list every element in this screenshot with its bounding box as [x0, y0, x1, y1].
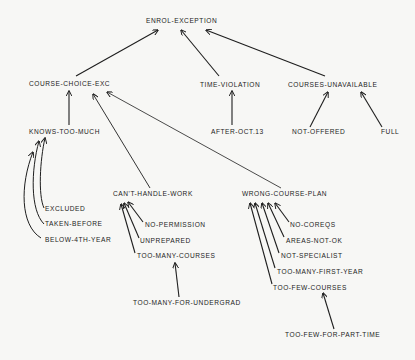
node-courses-unavailable: COURSES-UNAVAILABLE — [288, 81, 377, 89]
node-excluded: EXCLUDED — [45, 205, 85, 213]
edge-full-to-courses-unavailable — [361, 92, 382, 127]
node-taken-before: TAKEN-BEFORE — [45, 220, 102, 228]
node-enrol-exception: ENROL-EXCEPTION — [146, 17, 217, 25]
node-too-few-courses: TOO-FEW-COURSES — [273, 284, 347, 292]
node-no-permission: NO-PERMISSION — [145, 221, 206, 229]
node-time-violation: TIME-VIOLATION — [200, 81, 260, 89]
edge-course-choice-exc-to-enrol-exception — [76, 30, 158, 76]
edge-courses-unavailable-to-enrol-exception — [206, 30, 325, 76]
node-full: FULL — [381, 128, 399, 136]
edge-excluded-to-knows-too-much — [40, 138, 45, 208]
edge-no-coreqs-to-wrong-course-plan — [275, 203, 289, 222]
node-too-many-courses: TOO-MANY-COURSES — [137, 252, 215, 260]
edge-too-many-for-undergrad-to-too-many-courses — [175, 263, 179, 297]
node-course-choice-exc: COURSE-CHOICE-EXC — [29, 80, 110, 88]
edge-cant-handle-work-to-course-choice-exc — [93, 94, 150, 188]
node-areas-not-ok: AREAS-NOT-OK — [286, 237, 342, 245]
edge-below-4th-year-to-knows-too-much — [24, 152, 41, 238]
node-after-oct-13: AFTER-OCT.13 — [211, 128, 264, 136]
node-cant-handle-work: CAN'T-HANDLE-WORK — [113, 190, 193, 198]
node-not-offered: NOT-OFFERED — [292, 128, 345, 136]
exception-hierarchy-diagram: ENROL-EXCEPTION COURSE-CHOICE-EXC TIME-V… — [0, 0, 415, 360]
node-too-many-first-year: TOO-MANY-FIRST-YEAR — [277, 268, 363, 276]
node-too-few-for-part-time: TOO-FEW-FOR-PART-TIME — [285, 331, 380, 339]
node-not-specialist: NOT-SPECIALIST — [281, 252, 343, 260]
edge-not-offered-to-courses-unavailable — [310, 92, 328, 127]
node-wrong-course-plan: WRONG-COURSE-PLAN — [242, 190, 327, 198]
node-no-coreqs: NO-COREQS — [290, 221, 336, 229]
edge-too-few-for-part-time-to-too-few-courses — [323, 293, 334, 329]
edge-not-specialist-to-wrong-course-plan — [262, 203, 279, 253]
edge-no-permission-to-cant-handle-work — [128, 202, 143, 222]
edge-wrong-course-plan-to-course-choice-exc — [107, 92, 281, 188]
edge-time-violation-to-enrol-exception — [181, 30, 219, 76]
edge-areas-not-ok-to-wrong-course-plan — [268, 203, 284, 237]
node-knows-too-much: KNOWS-TOO-MUCH — [29, 128, 100, 136]
edge-too-few-courses-to-wrong-course-plan — [250, 203, 272, 284]
node-too-many-for-undergrad: TOO-MANY-FOR-UNDERGRAD — [133, 299, 241, 307]
node-below-4th-year: BELOW-4TH-YEAR — [45, 236, 111, 244]
node-unprepared: UNPREPARED — [140, 237, 191, 245]
